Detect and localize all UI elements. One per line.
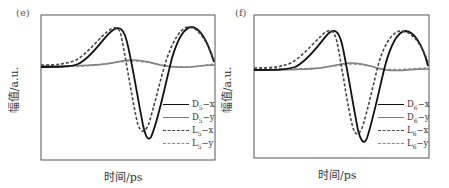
legend-item: L5−x: [163, 124, 215, 137]
legend-swatch-dashed-grey: [163, 143, 189, 144]
y-axis-label-f: 幅值/a.u.: [218, 67, 234, 113]
legend-item: L6−y: [378, 137, 430, 150]
legend-swatch-solid-grey: [378, 117, 404, 118]
legend-swatch-dashed-black: [163, 130, 189, 131]
x-axis-label-e: 时间/ps: [104, 168, 142, 184]
legend-item: D6−y: [378, 111, 430, 124]
legend-item: D6−x: [378, 98, 430, 111]
legend-swatch-solid-black: [378, 104, 404, 105]
panel-f: (f) 幅值/a.u. 时间/ps D6−x D6−y L6−x L6−y: [225, 0, 449, 188]
legend-e: D5−x D5−y L5−x L5−y: [163, 98, 215, 150]
plot-area-e: [0, 0, 225, 188]
legend-swatch-solid-black: [163, 104, 189, 105]
legend-f: D6−x D6−y L6−x L6−y: [378, 98, 430, 150]
legend-swatch-solid-grey: [163, 117, 189, 118]
panel-e: (e) 幅值/a.u. 时间/ps D5−x D5−y L5−x L5−y: [0, 0, 225, 188]
legend-item: L6−x: [378, 124, 430, 137]
legend-item: D5−x: [163, 98, 215, 111]
legend-swatch-dashed-black: [378, 130, 404, 131]
plot-area-f: [225, 0, 449, 188]
legend-item: D5−y: [163, 111, 215, 124]
legend-item: L5−y: [163, 137, 215, 150]
legend-swatch-dashed-grey: [378, 143, 404, 144]
x-axis-label-f: 时间/ps: [318, 166, 356, 182]
y-axis-label-e: 幅值/a.u.: [5, 67, 21, 113]
